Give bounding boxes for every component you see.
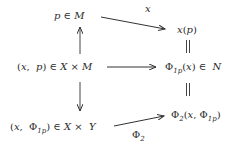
subscript-1p: 1p bbox=[37, 127, 46, 135]
element-of-symbol: ∈ bbox=[64, 10, 71, 21]
set-N: N bbox=[213, 61, 222, 72]
node-top-right: x(p) bbox=[177, 25, 197, 35]
node-mid-left: (x, p) ∈ X × M bbox=[17, 62, 92, 72]
set-X: X bbox=[60, 61, 67, 72]
times-symbol: × bbox=[71, 61, 79, 72]
element-of-symbol: ∈ bbox=[199, 61, 206, 72]
commutative-diagram: p ∈ M x x(p) (x, p) ∈ X × M Φ1p(x) ∈ N (… bbox=[0, 0, 241, 146]
equality-top-right bbox=[187, 40, 190, 53]
edge-label-x: x bbox=[145, 4, 151, 14]
phi-symbol: Φ bbox=[165, 61, 173, 72]
comma: , bbox=[27, 61, 30, 72]
paren-close: ) bbox=[217, 109, 221, 120]
subscript-1p: 1p bbox=[173, 67, 182, 75]
subscript-1p: 1p bbox=[208, 115, 217, 123]
phi-symbol: Φ bbox=[200, 109, 208, 120]
element-of-symbol: ∈ bbox=[53, 121, 60, 132]
node-bottom-left: (x, Φ1p) ∈ X × Y bbox=[10, 122, 96, 135]
set-X: X bbox=[64, 121, 71, 132]
paren-close: ) bbox=[43, 61, 47, 72]
node-mid-right: Φ1p(x) ∈ N bbox=[165, 62, 221, 75]
phi-symbol: Φ bbox=[132, 129, 140, 140]
label-x: x bbox=[145, 3, 151, 14]
arrow-bottom-phi2 bbox=[114, 116, 164, 126]
phi-symbol: Φ bbox=[171, 109, 179, 120]
arrow-top-x bbox=[101, 17, 165, 29]
var-p: p bbox=[54, 10, 60, 21]
set-Y: Y bbox=[89, 121, 96, 132]
comma: , bbox=[193, 109, 196, 120]
element-of-symbol: ∈ bbox=[50, 61, 57, 72]
paren-close: ) bbox=[193, 24, 197, 35]
equality-bottom-right bbox=[187, 83, 190, 96]
edge-label-phi2: Φ2 bbox=[132, 130, 145, 143]
subscript-2: 2 bbox=[140, 135, 144, 143]
node-bottom-right: Φ2(x, Φ1p) bbox=[171, 110, 221, 123]
comma: , bbox=[20, 121, 23, 132]
node-top-left: p ∈ M bbox=[54, 11, 84, 21]
set-M: M bbox=[74, 10, 84, 21]
paren-close: ) bbox=[192, 61, 196, 72]
paren-close: ) bbox=[46, 121, 50, 132]
times-symbol: × bbox=[74, 121, 82, 132]
set-M: M bbox=[82, 61, 92, 72]
